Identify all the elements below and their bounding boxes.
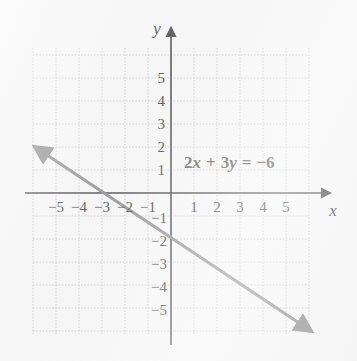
equation-coef-y: 3 [221, 153, 230, 172]
equation-equals: = [242, 153, 252, 172]
svg-text:2x+3y=−6: 2x+3y=−6 [184, 153, 275, 172]
x-tick-label: 5 [282, 199, 290, 215]
equation-var-y: y [227, 153, 237, 172]
y-tick-label: 1 [158, 162, 166, 178]
x-tick-label: −3 [94, 199, 110, 215]
y-tick-label: 5 [158, 70, 166, 86]
equation-var-x: x [192, 153, 202, 172]
x-tick-label: −5 [48, 199, 64, 215]
y-tick-label: 4 [158, 93, 166, 109]
y-tick-label: −1 [151, 210, 167, 226]
x-tick-label: 1 [190, 199, 198, 215]
equation-rhs: −6 [256, 153, 274, 172]
x-tick-label: −4 [71, 199, 87, 215]
y-tick-label: 3 [158, 116, 166, 132]
y-tick-label: −5 [151, 302, 167, 318]
y-tick-label: −3 [151, 256, 167, 272]
x-tick-label: 2 [213, 199, 221, 215]
figure-background [0, 0, 357, 361]
x-tick-label: −2 [117, 199, 133, 215]
x-tick-label: 3 [236, 199, 244, 215]
x-axis-label: x [328, 201, 337, 220]
equation-annotation: 2x+3y=−6 [184, 153, 275, 172]
y-axis-label: y [151, 19, 161, 38]
coordinate-plane-svg: −5 −4 −3 −2 −1 1 2 3 4 5 5 4 3 2 1 −1 −2… [0, 0, 357, 361]
x-tick-label: 4 [259, 199, 267, 215]
y-tick-label: −4 [151, 279, 167, 295]
equation-coef-x: 2 [184, 153, 193, 172]
equation-plus: + [206, 153, 216, 172]
graph-figure: −5 −4 −3 −2 −1 1 2 3 4 5 5 4 3 2 1 −1 −2… [0, 0, 357, 361]
y-tick-label: 2 [158, 139, 166, 155]
y-tick-label: −2 [151, 233, 167, 249]
